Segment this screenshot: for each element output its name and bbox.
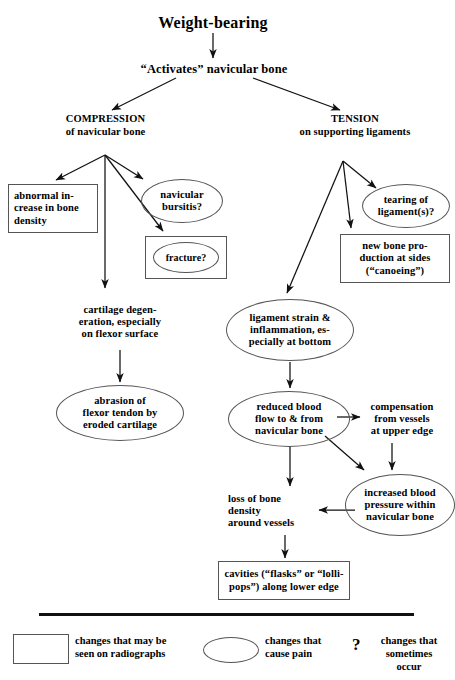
arrow-tension-to-tearing <box>343 161 376 188</box>
node-cavities: cavities (“flasks” or “lolli- pops”) alo… <box>218 561 350 600</box>
node-abnormal-increase: abnormal in- crease in bone density <box>8 184 98 233</box>
legend-qmark-label: changes that sometimes occur <box>367 635 451 673</box>
node-abrasion: abrasion of flexor tendon by eroded cart… <box>56 385 184 441</box>
arrow-tension-to-ligament <box>287 161 343 293</box>
legend-divider <box>39 613 414 616</box>
arrow-activates-to-compression <box>112 78 176 110</box>
node-reduced-blood-flow: reduced blood flow to & from navicular b… <box>228 391 350 447</box>
arrow-compression-to-abnormal <box>56 155 105 180</box>
node-ligament-strain: ligament strain & inflammation, es- peci… <box>226 299 354 361</box>
arrow-tension-to-newbone <box>343 161 351 228</box>
arrow-activates-to-tension <box>253 78 340 110</box>
node-increased-pressure: increased blood pressure within navicula… <box>345 474 455 536</box>
arrow-reduced-to-increased <box>325 436 364 470</box>
page-title: Weight-bearing <box>123 12 303 34</box>
legend-rect-swatch <box>13 634 69 664</box>
node-navicular-bursitis: navicular bursitis? <box>141 179 223 223</box>
node-fracture: fracture? <box>153 242 219 273</box>
flowchart-page: Weight-bearing “Activates” navicular bon… <box>0 0 455 680</box>
node-new-bone-production: new bone pro- duction at sides (“canoein… <box>340 234 450 283</box>
node-compensation: compensation from vessels at upper edge <box>352 398 452 440</box>
arrow-compression-to-bursitis <box>105 155 143 179</box>
branch-heading-compression: COMPRESSION of navicular bone <box>33 112 178 140</box>
legend-question-mark-icon: ? <box>352 636 361 653</box>
legend-rect-label: changes that may be seen on radiographs <box>75 635 195 661</box>
node-cartilage-degeneration: cartilage degen- eration, especially on … <box>52 300 188 344</box>
node-activates: “Activates” navicular bone <box>123 60 305 78</box>
legend-ellipse-swatch <box>203 637 259 663</box>
branch-heading-tension: TENSION on supporting ligaments <box>270 112 440 140</box>
node-loss-of-bone-density: loss of bone density around vessels <box>228 489 326 533</box>
node-tearing-ligaments: tearing of ligament(s)? <box>362 184 450 228</box>
legend-ellipse-label: changes that cause pain <box>265 635 351 661</box>
